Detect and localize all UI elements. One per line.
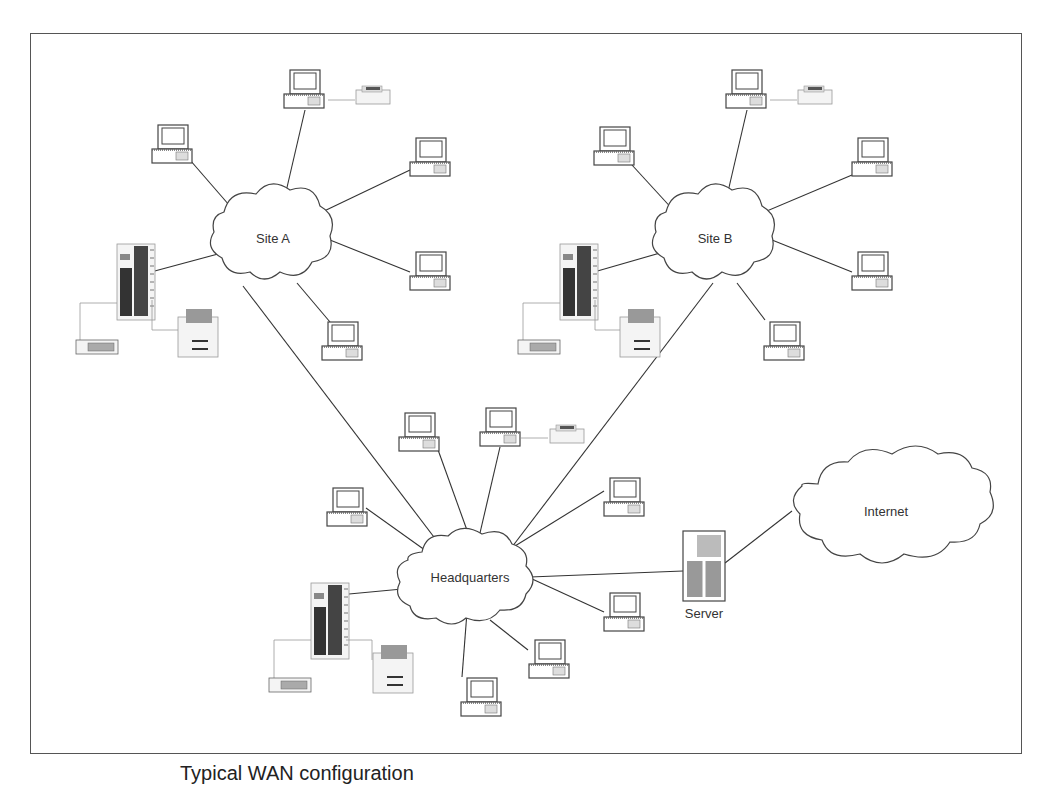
cloud-label-site-a: Site A: [256, 231, 290, 246]
pc-icon: [410, 252, 450, 290]
pc-icon: [604, 478, 644, 516]
modem-icon: [269, 678, 311, 692]
pc-icon: [604, 593, 644, 631]
printer-icon: [798, 86, 832, 104]
laser-printer-icon: [373, 645, 413, 693]
cloud-site-b: Site B: [652, 184, 774, 279]
pc-icon: [726, 70, 766, 108]
cloud-internet: Internet: [793, 446, 993, 563]
pc-icon: [322, 322, 362, 360]
pc-icon: [764, 322, 804, 360]
pc-icon: [152, 125, 192, 163]
pc-icon: [852, 252, 892, 290]
pc-icon: [529, 640, 569, 678]
cloud-headquarters: Headquarters: [397, 528, 533, 624]
pc-icon: [410, 138, 450, 176]
hub-icon: [311, 583, 349, 659]
printer-icon: [356, 86, 390, 104]
cloud-label-site-b: Site B: [698, 231, 733, 246]
laser-printer-icon: [178, 309, 218, 357]
server-label: Server: [685, 606, 724, 621]
printer-icon: [550, 425, 584, 443]
pc-icon: [399, 413, 439, 451]
pc-icon: [480, 408, 520, 446]
figure-caption: Typical WAN configuration: [180, 762, 414, 785]
modem-icon: [76, 340, 118, 354]
pc-icon: [461, 678, 501, 716]
hub-icon: [117, 244, 155, 320]
pc-icon: [284, 70, 324, 108]
server: Server: [683, 531, 725, 621]
laser-printer-icon: [620, 309, 660, 357]
pc-icon: [852, 138, 892, 176]
cloud-site-a: Site A: [210, 184, 332, 279]
cloud-label-headquarters: Headquarters: [431, 570, 510, 585]
pc-icon: [327, 488, 367, 526]
pc-icon: [594, 127, 634, 165]
modem-icon: [518, 340, 560, 354]
cloud-label-internet: Internet: [864, 504, 908, 519]
hub-icon: [560, 244, 598, 320]
